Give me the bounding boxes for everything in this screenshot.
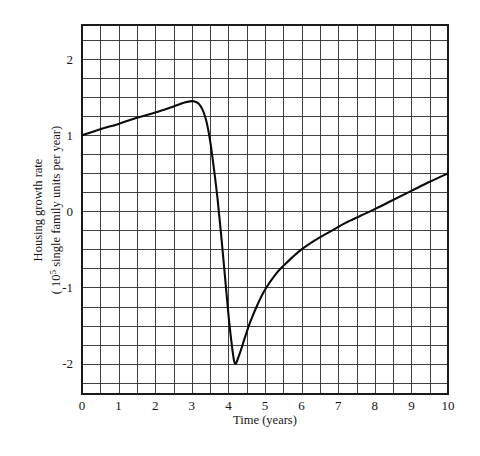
- x-tick-label: 4: [225, 398, 232, 413]
- chart-figure: 012345678910 210-1-2 Time (years) Housin…: [0, 0, 480, 456]
- y-axis-units-prefix: ( 10: [49, 274, 63, 294]
- x-tick-label: 3: [189, 398, 196, 413]
- x-axis-tick-labels: 012345678910: [79, 398, 455, 413]
- housing-growth-rate-chart: 012345678910 210-1-2 Time (years) Housin…: [0, 0, 480, 456]
- grid-lines: [82, 25, 449, 394]
- y-axis-title-line2: ( 105 single family units per year): [48, 126, 63, 294]
- x-tick-label: 8: [372, 398, 379, 413]
- y-axis-title: Housing growth rate ( 105 single family …: [31, 126, 63, 294]
- x-tick-label: 5: [262, 398, 269, 413]
- x-tick-label: 2: [152, 398, 159, 413]
- x-tick-label: 0: [79, 398, 86, 413]
- y-tick-label: -1: [62, 280, 73, 295]
- y-axis-units-suffix: single family units per year): [49, 126, 63, 270]
- x-tick-label: 9: [408, 398, 415, 413]
- x-tick-label: 6: [298, 398, 305, 413]
- x-axis-title: Time (years): [233, 413, 297, 427]
- y-axis-title-line1: Housing growth rate: [31, 158, 45, 261]
- x-tick-label: 1: [115, 398, 122, 413]
- y-tick-label: 1: [67, 128, 74, 143]
- x-tick-label: 10: [442, 398, 455, 413]
- y-axis-tick-labels: 210-1-2: [62, 52, 73, 371]
- y-tick-label: 0: [67, 204, 74, 219]
- y-tick-label: -2: [62, 356, 73, 371]
- y-tick-label: 2: [67, 52, 74, 67]
- x-tick-label: 7: [335, 398, 342, 413]
